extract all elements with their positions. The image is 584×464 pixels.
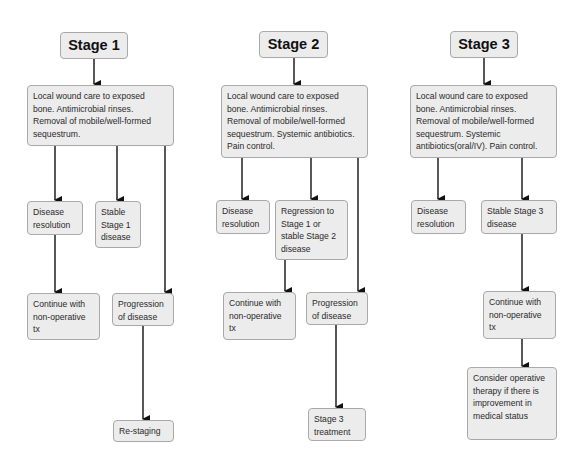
stage-1-stable-disease: Stable Stage 1 disease: [95, 201, 141, 248]
stage-3-continue-non-operative: Continue with non-operative tx: [483, 291, 556, 339]
stage-3-consider-operative: Consider operative therapy if there is i…: [467, 367, 557, 440]
stage-1-treatment: Local wound care to exposed bone. Antimi…: [27, 85, 174, 146]
stage-2-progression: Progression of disease: [306, 292, 368, 325]
stage-3-treatment: Local wound care to exposed bone. Antimi…: [410, 85, 557, 158]
stage-1-re-staging: Re-staging: [113, 420, 174, 442]
stage-3-title: Stage 3: [450, 31, 518, 58]
stage-1-continue-non-operative: Continue with non-operative tx: [27, 293, 100, 340]
stage-2-treatment: Local wound care to exposed bone. Antimi…: [221, 85, 368, 158]
stage-2-stage-3-treatment: Stage 3 treatment: [308, 408, 366, 441]
stage-2-disease-resolution: Disease resolution: [216, 200, 270, 234]
stage-3-disease-resolution: Disease resolution: [411, 200, 466, 234]
stage-2-regression-or-stable: Regression to Stage 1 or stable Stage 2 …: [275, 200, 348, 260]
stage-1-title: Stage 1: [60, 32, 128, 59]
stage-3-stable-disease: Stable Stage 3 disease: [481, 200, 557, 234]
stage-2-continue-non-operative: Continue with non-operative tx: [223, 292, 296, 340]
stage-2-title: Stage 2: [259, 31, 328, 58]
stage-1-progression: Progression of disease: [112, 293, 174, 326]
stage-1-disease-resolution: Disease resolution: [27, 201, 83, 235]
